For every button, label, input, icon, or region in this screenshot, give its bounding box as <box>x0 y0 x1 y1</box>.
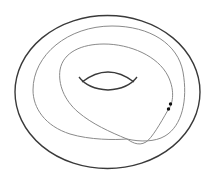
torus-figure <box>0 0 215 180</box>
torus-diagram <box>0 0 215 180</box>
winding-curve <box>33 26 185 144</box>
hole-lower-arc <box>79 77 137 90</box>
point-b <box>167 107 170 110</box>
hole-upper-arc <box>82 72 134 82</box>
point-a <box>169 102 172 105</box>
torus-hole <box>79 72 137 90</box>
